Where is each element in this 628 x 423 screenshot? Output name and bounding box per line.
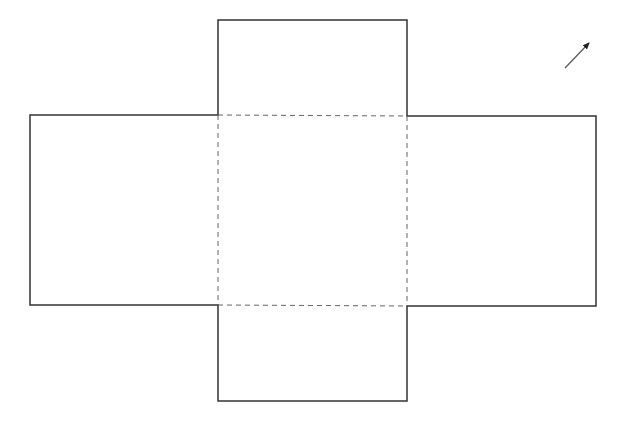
fold-lines [218,115,407,306]
cube-net-diagram [0,0,628,423]
net-outline [30,20,596,401]
arrow-up-right-icon [565,43,589,68]
fold-line-bottom [218,305,407,306]
fold-line-top [218,115,407,116]
